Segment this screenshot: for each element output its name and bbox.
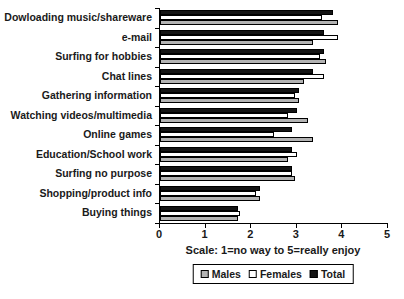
bar-group bbox=[160, 125, 388, 145]
category-label: Chat lines bbox=[0, 67, 152, 87]
legend-swatch-males bbox=[201, 270, 209, 278]
category-label: Online games bbox=[0, 125, 152, 145]
category-label: e-mail bbox=[0, 28, 152, 48]
bar-group bbox=[160, 67, 388, 87]
y-tick-mark bbox=[155, 184, 159, 185]
bar-males bbox=[160, 137, 313, 142]
bar-group bbox=[160, 86, 388, 106]
y-tick-mark bbox=[155, 106, 159, 107]
bar-group bbox=[160, 184, 388, 204]
y-tick-mark bbox=[155, 164, 159, 165]
bar-males bbox=[160, 118, 308, 123]
bar-males bbox=[160, 176, 295, 181]
y-tick-mark bbox=[155, 145, 159, 146]
category-label: Buying things bbox=[0, 203, 152, 223]
bar-group bbox=[160, 106, 388, 126]
x-tick-label: 1 bbox=[195, 228, 215, 240]
legend-label: Total bbox=[321, 268, 345, 280]
bar-group bbox=[160, 203, 388, 223]
y-tick-mark bbox=[155, 67, 159, 68]
bar-males bbox=[160, 79, 304, 84]
bar-males bbox=[160, 196, 260, 201]
category-label: Watching videos/multimedia bbox=[0, 106, 152, 126]
legend-item-females: Females bbox=[249, 268, 302, 280]
legend-item-total: Total bbox=[310, 268, 345, 280]
legend-item-males: Males bbox=[201, 268, 241, 280]
y-tick-mark bbox=[155, 125, 159, 126]
y-tick-mark bbox=[155, 86, 159, 87]
y-tick-mark bbox=[155, 47, 159, 48]
bar-males bbox=[160, 20, 338, 25]
bar-group bbox=[160, 164, 388, 184]
category-label: Surfing for hobbies bbox=[0, 47, 152, 67]
y-tick-mark bbox=[155, 203, 159, 204]
x-axis-title: Scale: 1=no way to 5=really enjoy bbox=[159, 244, 387, 256]
plot-area bbox=[159, 8, 388, 224]
bar-males bbox=[160, 40, 313, 45]
legend-swatch-females bbox=[249, 270, 257, 278]
bar-group bbox=[160, 28, 388, 48]
bar-males bbox=[160, 216, 238, 221]
y-tick-mark bbox=[155, 28, 159, 29]
legend-label: Females bbox=[260, 268, 302, 280]
bar-males bbox=[160, 59, 326, 64]
legend-swatch-total bbox=[310, 270, 318, 278]
category-label: Education/School work bbox=[0, 145, 152, 165]
bar-males bbox=[160, 157, 288, 162]
legend: MalesFemalesTotal bbox=[193, 264, 354, 284]
x-tick-label: 5 bbox=[377, 228, 397, 240]
y-tick-mark bbox=[155, 8, 159, 9]
x-tick-label: 4 bbox=[331, 228, 351, 240]
bar-group bbox=[160, 8, 388, 28]
category-label: Surfing no purpose bbox=[0, 164, 152, 184]
x-tick-label: 2 bbox=[240, 228, 260, 240]
enjoyment-bar-chart: Dowloading music/sharewaree-mailSurfing … bbox=[0, 0, 404, 299]
x-tick-label: 0 bbox=[149, 228, 169, 240]
bar-group bbox=[160, 145, 388, 165]
bar-males bbox=[160, 98, 299, 103]
category-label: Gathering information bbox=[0, 86, 152, 106]
category-label: Shopping/product info bbox=[0, 184, 152, 204]
bar-group bbox=[160, 47, 388, 67]
x-tick-label: 3 bbox=[286, 228, 306, 240]
legend-label: Males bbox=[212, 268, 241, 280]
category-label: Dowloading music/shareware bbox=[0, 8, 152, 28]
